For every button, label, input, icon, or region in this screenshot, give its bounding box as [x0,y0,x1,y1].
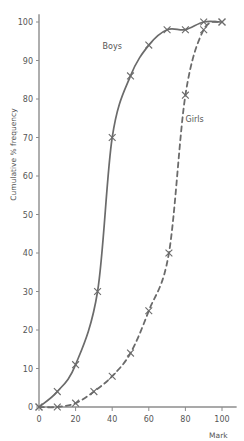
x-tick-label: 20 [71,415,81,424]
y-axis-title: Cumulative % frequency [9,108,18,201]
x-tick-label: 100 [214,415,229,424]
x-tick-label: 40 [107,415,117,424]
chart-canvas: 0102030405060708090100 020406080100 Boys… [0,0,244,441]
series-label-girls: Girls [185,115,203,124]
y-tick-label: 10 [23,365,33,374]
x-tick-label: 60 [144,415,154,424]
cumulative-frequency-chart: 0102030405060708090100 020406080100 Boys… [0,0,244,441]
y-tick-label: 20 [23,326,33,335]
y-tick-label: 90 [23,57,33,66]
y-tick-label: 40 [23,249,33,258]
y-tick-label: 30 [23,288,33,297]
y-tick-label: 0 [28,403,33,412]
y-tick-label: 60 [23,172,33,181]
y-tick-label: 50 [23,211,33,220]
x-tick-label: 80 [180,415,190,424]
series-label-boys: Boys [103,42,122,51]
y-tick-label: 80 [23,95,33,104]
chart-background [0,0,244,441]
y-tick-label: 100 [18,18,33,27]
x-tick-label: 0 [36,415,41,424]
x-axis-title: Mark [209,431,228,440]
y-tick-label: 70 [23,134,33,143]
